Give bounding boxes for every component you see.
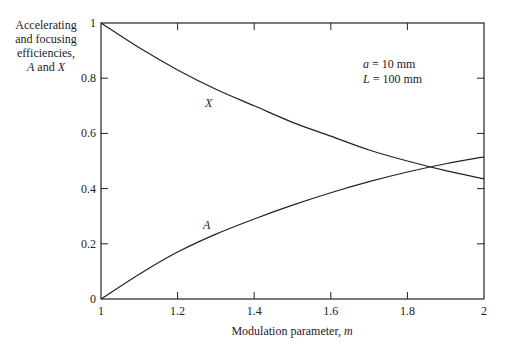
curve-x (101, 23, 484, 179)
y-tick-label: 0.6 (81, 126, 96, 140)
svg-text:L = 100 mm: L = 100 mm (362, 72, 423, 86)
y-tick-label: 0.2 (81, 237, 96, 251)
svg-text:Accelerating: Accelerating (15, 18, 76, 32)
parameter-annotation: a = 10 mm L = 100 mm (362, 57, 423, 86)
y-tick-label: 0.4 (81, 182, 96, 196)
curve-a-label: A (202, 218, 211, 232)
y-tick-label: 0 (90, 292, 96, 306)
chart: Accelerating and focusing efficiencies, … (0, 0, 508, 347)
axis-ticks (101, 23, 484, 299)
plot-frame (101, 23, 484, 299)
svg-text:efficiencies,: efficiencies, (17, 46, 75, 60)
y-axis-label: Accelerating and focusing efficiencies, … (15, 18, 77, 74)
y-tick-label: 1 (90, 16, 96, 30)
x-tick-label: 1.4 (247, 304, 262, 318)
x-tick-label: 1.8 (400, 304, 415, 318)
x-tick-label: 1.6 (323, 304, 338, 318)
x-axis-label: Modulation parameter, m (231, 324, 352, 338)
curve-x-label: X (204, 96, 213, 110)
svg-text:a = 10 mm: a = 10 mm (363, 57, 416, 71)
svg-text:and focusing: and focusing (15, 32, 77, 46)
y-tick-label: 0.8 (81, 71, 96, 85)
x-tick-label: 1 (98, 304, 104, 318)
svg-text:A and X: A and X (26, 60, 66, 74)
x-tick-label: 2 (481, 304, 487, 318)
curve-a (101, 157, 484, 299)
x-tick-label: 1.2 (170, 304, 185, 318)
